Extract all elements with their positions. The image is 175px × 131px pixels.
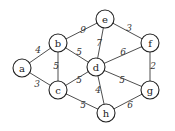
node-d: d [87,58,105,76]
node-label: d [93,62,100,73]
node-label: b [55,38,61,49]
node-label: c [55,85,61,96]
node-label: e [102,14,108,25]
edge-weight-b-c: 5 [53,61,59,71]
edge-weight-b-d: 5 [76,47,82,57]
edge-weight-c-h: 5 [80,100,86,110]
node-h: h [97,104,115,122]
edge-weight-d-g: 5 [119,75,125,85]
node-label: a [19,63,25,74]
edge-weight-e-f: 3 [126,23,132,33]
node-f: f [141,34,159,52]
edge-weight-c-d: 5 [76,75,82,85]
edge-weight-d-f: 6 [120,47,126,57]
node-label: h [103,108,110,119]
edges-layer [22,19,150,113]
edge-weight-f-g: 2 [149,61,156,71]
node-a: a [13,59,31,77]
node-label: g [147,85,154,96]
node-b: b [49,34,67,52]
weighted-graph-diagram: 43595557654326 abcdefgh [0,0,175,131]
edge-weight-d-e: 7 [96,38,102,48]
node-e: e [96,10,114,28]
nodes-layer: abcdefgh [13,10,159,122]
edge-weight-b-e: 9 [80,25,86,35]
node-g: g [141,81,159,99]
edge-weight-a-c: 3 [34,79,40,89]
edge-weight-d-h: 4 [94,85,101,95]
edge-weight-g-h: 6 [127,100,133,110]
node-c: c [49,81,67,99]
edge-weight-a-b: 4 [34,45,41,55]
